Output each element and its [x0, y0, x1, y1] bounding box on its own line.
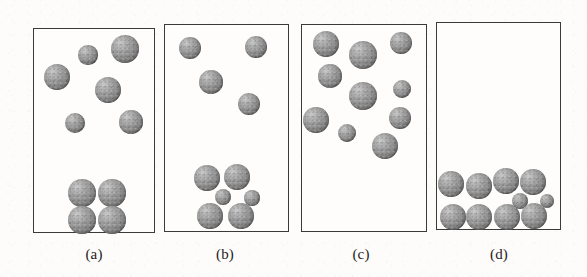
panel-b-particle-dispersed: [199, 70, 223, 94]
panel-b-label: (b): [195, 246, 255, 263]
panel-b-particle-sediment: [194, 165, 219, 190]
panel-d-particle-sediment: [438, 171, 463, 196]
panel-a-particle-dispersed: [111, 35, 139, 63]
particle-settling-figure: (a)(b)(c)(d): [0, 0, 587, 277]
panel-d-particle-sediment: [466, 173, 491, 198]
panel-d-particle-sediment: [440, 204, 466, 230]
panel-d-particle-sediment: [493, 168, 518, 193]
panel-a-particle-dispersed: [78, 45, 97, 64]
panel-a-particle-sediment: [68, 206, 95, 233]
panel-c-label: (c): [331, 246, 391, 263]
panel-d-particle-sediment: [521, 203, 547, 229]
panel-c-particle-dispersed: [349, 82, 377, 110]
panel-d-label: (d): [469, 246, 529, 263]
panel-c-particle-dispersed: [318, 64, 341, 87]
panel-d-particle-sediment: [494, 204, 520, 230]
panel-c-particle-dispersed: [393, 80, 411, 98]
panel-d-particle-sediment: [520, 169, 545, 194]
panel-a-particle-dispersed: [65, 113, 85, 133]
panel-a-particle-sediment: [98, 179, 125, 206]
panel-a-particle-dispersed: [119, 110, 142, 133]
panel-a-particle-sediment: [68, 179, 95, 206]
panel-c-particle-dispersed: [303, 107, 328, 132]
panel-b-particle-sediment: [215, 189, 231, 205]
panel-c-particle-dispersed: [349, 41, 377, 69]
panel-b-particle-sediment: [197, 203, 222, 228]
panel-a-label: (a): [64, 246, 124, 263]
panel-a-particle-sediment: [98, 206, 125, 233]
panel-d-particle-sediment: [466, 204, 492, 230]
